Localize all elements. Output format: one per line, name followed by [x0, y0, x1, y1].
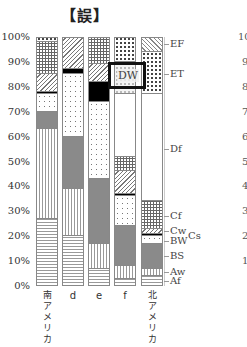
y-tick-label: 30% — [0, 206, 30, 216]
bar-segment-cw — [63, 37, 83, 68]
legend-label-cf: Cf — [170, 211, 181, 221]
legend-tick — [164, 231, 169, 232]
legend-tick — [164, 149, 169, 150]
x-category-label: d — [62, 290, 84, 301]
adjacent-chart-tick: 6 — [242, 132, 247, 142]
bar-segment-cf — [142, 200, 162, 227]
adjacent-chart-tick: 3 — [242, 206, 247, 216]
bar-segment-cf — [37, 41, 57, 73]
legend-label-bs: BS — [170, 251, 184, 261]
bar-segment-aw — [89, 243, 109, 268]
bar-segment-cw — [115, 170, 135, 192]
legend-label-df: Df — [170, 144, 182, 154]
adjacent-chart-tick: 7 — [242, 107, 247, 117]
bar-segment-bs — [115, 225, 135, 265]
bar-segment-bs — [63, 136, 83, 188]
bar-segment-bs — [37, 111, 57, 128]
x-category-label: f — [114, 290, 136, 301]
bar-segment-af — [63, 235, 83, 285]
legend-tick — [164, 256, 169, 257]
chart-title: 【誤】 — [0, 4, 170, 25]
legend-label-cs: Cs — [188, 231, 201, 241]
bar-segment-bw — [115, 195, 135, 225]
bar-segment-aw — [63, 188, 83, 235]
dw-label: DW — [117, 69, 139, 82]
x-category-label: 北アメリカ — [141, 290, 163, 345]
bar-segment-ef — [142, 37, 162, 51]
bar-segment-af — [115, 278, 135, 285]
adjacent-chart-tick: 9 — [242, 57, 247, 67]
legend-tick — [164, 44, 169, 45]
legend-label-bw: BW — [170, 236, 188, 246]
adjacent-chart-tick: 5 — [242, 157, 247, 167]
bar-segment-aw — [115, 265, 135, 277]
bar-segment-bw — [63, 73, 83, 135]
y-tick-label: 70% — [0, 107, 30, 117]
legend-label-af: Af — [170, 276, 181, 286]
y-tick-label: 60% — [0, 132, 30, 142]
bar-segment-cs — [63, 68, 83, 73]
y-tick-label: 90% — [0, 57, 30, 67]
bar-segment-cf — [89, 37, 109, 63]
bar-segment-cw — [142, 228, 162, 233]
legend-tick — [164, 216, 169, 217]
y-tick-label: 40% — [0, 181, 30, 191]
bar-segment-bw — [142, 235, 162, 242]
legend-tick — [164, 281, 169, 282]
bar-segment-cs — [89, 81, 109, 101]
y-tick-label: 100% — [0, 32, 30, 42]
bar-column — [62, 37, 84, 286]
bar-segment-df — [115, 93, 135, 155]
bar-segment-cw — [89, 63, 109, 80]
legend-label-et: ET — [170, 69, 184, 79]
legend-tick — [164, 241, 169, 242]
legend-tick — [164, 272, 169, 273]
bar-segment-af — [89, 268, 109, 285]
bar-segment-bw — [89, 101, 109, 178]
adjacent-chart-tick: 8 — [242, 82, 247, 92]
bar-segment-cs — [37, 91, 57, 93]
bar-segment-df — [142, 93, 162, 200]
bar-segment-aw — [142, 268, 162, 275]
adjacent-chart-tick: 4 — [242, 181, 247, 191]
bar-segment-et — [115, 37, 135, 61]
bar-segment-bs — [142, 243, 162, 268]
bar-segment-bs — [89, 178, 109, 243]
x-category-label: 南アメリカ — [36, 290, 58, 345]
bar-segment-cw — [37, 73, 57, 90]
bar-segment-et — [37, 37, 57, 41]
bar-segment-cf — [115, 156, 135, 171]
bar-column — [36, 37, 58, 286]
legend-label-ef: EF — [170, 39, 184, 49]
adjacent-chart-tick: 1 — [242, 256, 247, 266]
y-tick-label: 10% — [0, 256, 30, 266]
bar-column — [88, 37, 110, 286]
y-tick-label: 50% — [0, 157, 30, 167]
x-category-label: e — [88, 290, 110, 301]
bar-segment-bw — [37, 93, 57, 110]
y-tick-label: 80% — [0, 82, 30, 92]
bar-segment-cs — [142, 233, 162, 235]
bar-segment-aw — [37, 128, 57, 218]
y-tick-label: 20% — [0, 231, 30, 241]
bar-segment-af — [142, 275, 162, 285]
legend-tick — [164, 74, 169, 75]
bar-segment-af — [37, 218, 57, 285]
adjacent-chart-tick: 10 — [238, 32, 247, 42]
y-tick-label: 0% — [0, 281, 30, 291]
adjacent-chart-tick: 2 — [242, 231, 247, 241]
bar-segment-cs — [115, 193, 135, 195]
